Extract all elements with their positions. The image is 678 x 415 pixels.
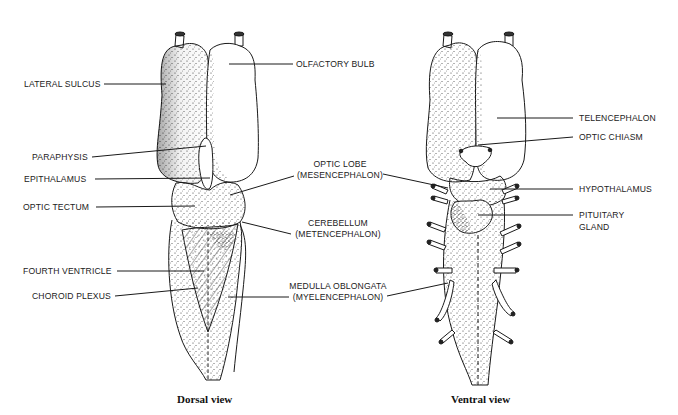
label-pituitary-line2: GLAND [579, 222, 624, 233]
label-telencephalon: TELENCEPHALON [579, 113, 656, 124]
label-lateral-sulcus: LATERAL SULCUS [24, 79, 101, 90]
label-optic-lobe-line2: (MESENCEPHALON) [292, 170, 388, 181]
label-choroid-plexus: CHOROID PLEXUS [32, 291, 111, 302]
label-hypothalamus: HYPOTHALAMUS [579, 184, 652, 195]
label-paraphysis: PARAPHYSIS [32, 152, 88, 163]
caption-dorsal-view: Dorsal view [177, 393, 232, 405]
label-optic-lobe-line1: OPTIC LOBE [292, 159, 388, 170]
ventral-brain [426, 32, 525, 385]
label-epithalamus: EPITHALAMUS [24, 174, 86, 185]
label-fourth-ventricle: FOURTH VENTRICLE [23, 266, 112, 277]
label-medulla-line2: (MYELENCEPHALON) [283, 292, 393, 303]
label-olfactory-bulb: OLFACTORY BULB [296, 59, 375, 70]
label-cerebellum-line2: (METENCEPHALON) [290, 229, 386, 240]
brain-anatomy-diagram: LATERAL SULCUS OLFACTORY BULB PARAPHYSIS… [0, 0, 678, 415]
label-optic-lobe: OPTIC LOBE (MESENCEPHALON) [292, 159, 388, 181]
label-cerebellum-line1: CEREBELLUM [290, 218, 386, 229]
caption-ventral-view: Ventral view [451, 393, 510, 405]
label-pituitary-line1: PITUITARY [579, 210, 624, 221]
label-optic-chiasm: OPTIC CHIASM [579, 132, 643, 143]
label-medulla-line1: MEDULLA OBLONGATA [283, 281, 393, 292]
label-medulla-oblongata: MEDULLA OBLONGATA (MYELENCEPHALON) [283, 281, 393, 303]
label-cerebellum: CEREBELLUM (METENCEPHALON) [290, 218, 386, 240]
label-pituitary-gland: PITUITARY GLAND [579, 210, 624, 233]
label-optic-tectum: OPTIC TECTUM [23, 202, 89, 213]
